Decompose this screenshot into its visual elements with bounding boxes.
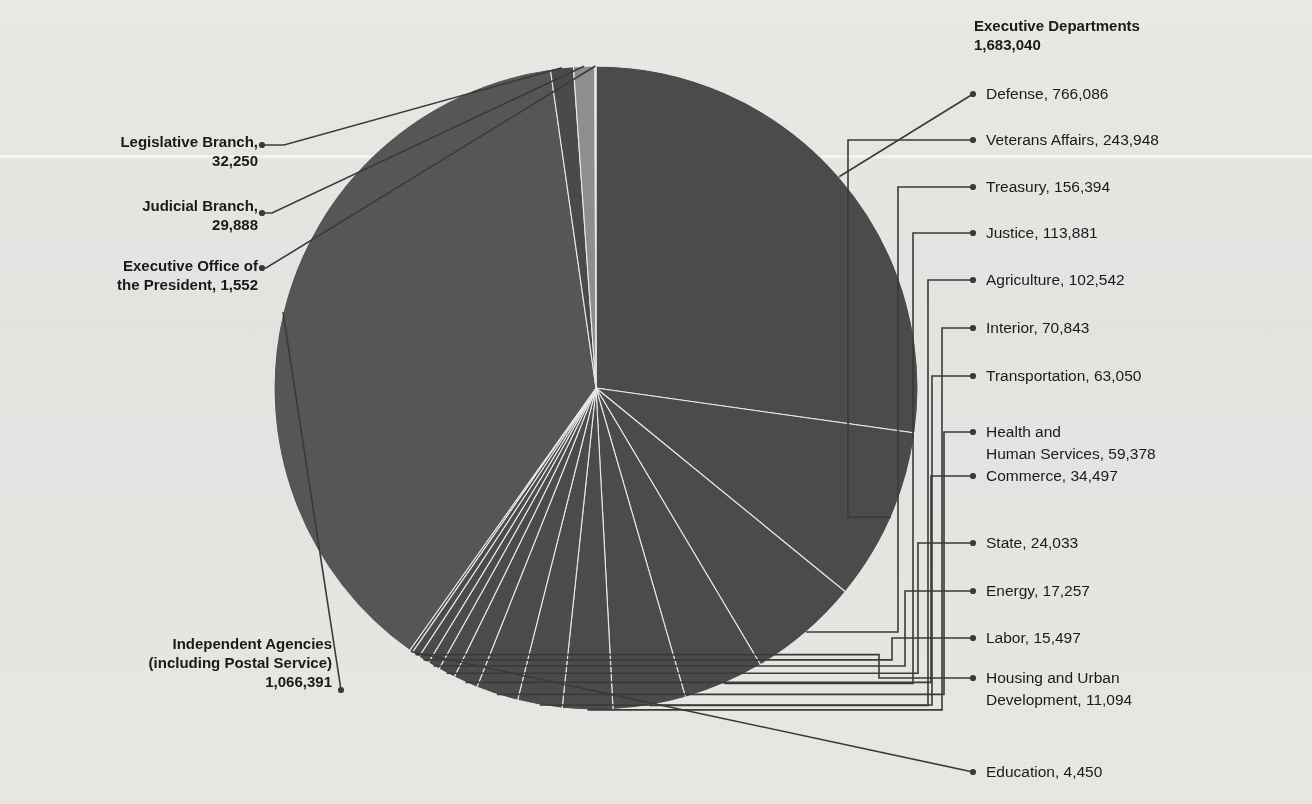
leader-dot (970, 540, 976, 546)
leader-dot (970, 325, 976, 331)
leader-dot (970, 429, 976, 435)
label-independent-agencies: Independent Agencies (including Postal S… (0, 634, 332, 691)
label-transportation: Transportation, 63,050 (986, 366, 1141, 385)
leader-dot (970, 137, 976, 143)
judicial-branch-line1: Judicial Branch, (0, 196, 258, 215)
leader-dot (970, 675, 976, 681)
leader-dot (970, 473, 976, 479)
label-judicial-branch: Judicial Branch, 29,888 (0, 196, 258, 234)
label-agriculture: Agriculture, 102,542 (986, 270, 1125, 289)
label-health-human-services-l2: Human Services, 59,378 (986, 444, 1156, 463)
label-education: Education, 4,450 (986, 762, 1102, 781)
label-labor: Labor, 15,497 (986, 628, 1081, 647)
leader-dot (970, 91, 976, 97)
leader-dot (970, 588, 976, 594)
independent-agencies-line1: Independent Agencies (0, 634, 332, 653)
label-state: State, 24,033 (986, 533, 1078, 552)
label-treasury: Treasury, 156,394 (986, 177, 1110, 196)
pie-slices (274, 66, 918, 710)
label-interior: Interior, 70,843 (986, 318, 1089, 337)
leader-line (839, 94, 973, 177)
leader-dot (970, 230, 976, 236)
leader-dot (970, 373, 976, 379)
label-health-human-services-l1: Health and (986, 422, 1061, 441)
leader-dot (970, 635, 976, 641)
executive-departments-title: Executive Departments (974, 16, 1140, 35)
label-executive-office-president: Executive Office of the President, 1,552 (0, 256, 258, 294)
label-energy: Energy, 17,257 (986, 581, 1090, 600)
pie-slice (596, 66, 918, 433)
label-justice: Justice, 113,881 (986, 223, 1098, 242)
leader-dot (259, 142, 265, 148)
legislative-branch-line2: 32,250 (0, 151, 258, 170)
label-housing-urban-development-l2: Development, 11,094 (986, 690, 1132, 709)
judicial-branch-line2: 29,888 (0, 215, 258, 234)
independent-agencies-line3: 1,066,391 (0, 672, 332, 691)
leader-dot (259, 265, 265, 271)
label-veterans-affairs: Veterans Affairs, 243,948 (986, 130, 1159, 149)
leader-dot (259, 210, 265, 216)
label-housing-urban-development-l1: Housing and Urban (986, 668, 1120, 687)
executive-departments-total: 1,683,040 (974, 35, 1140, 54)
label-defense: Defense, 766,086 (986, 84, 1108, 103)
eop-line2: the President, 1,552 (0, 275, 258, 294)
leader-dot (970, 184, 976, 190)
independent-agencies-line2: (including Postal Service) (0, 653, 332, 672)
executive-departments-heading: Executive Departments 1,683,040 (974, 16, 1140, 54)
label-commerce: Commerce, 34,497 (986, 466, 1118, 485)
label-legislative-branch: Legislative Branch, 32,250 (0, 132, 258, 170)
leader-dot (970, 769, 976, 775)
legislative-branch-line1: Legislative Branch, (0, 132, 258, 151)
eop-line1: Executive Office of (0, 256, 258, 275)
leader-dot (970, 277, 976, 283)
leader-dot (338, 687, 344, 693)
